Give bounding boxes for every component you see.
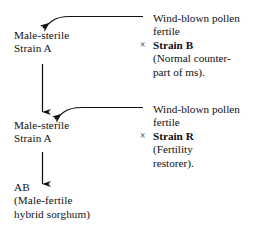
sorghum-crossing-diagram: Male-sterile Strain A Male-sterile Strai… — [0, 0, 260, 231]
pollen-source-stage-1-note1: (Normal counter- — [144, 52, 240, 65]
pollen-source-stage-2-line2: fertile — [144, 116, 240, 129]
female-parent-stage-1: Male-sterile Strain A — [14, 29, 69, 56]
female-parent-stage-2-line2: Strain A — [14, 132, 69, 145]
pollen-source-stage-2-strain: Strain R — [153, 130, 194, 142]
hybrid-result: AB (Male-fertile hybrid sorghum) — [14, 181, 90, 221]
female-parent-stage-2: Male-sterile Strain A — [14, 119, 69, 146]
pollen-source-stage-1-note2: part of ms). — [144, 66, 240, 79]
pollen-source-stage-2-note2: restorer). — [144, 157, 240, 170]
female-parent-stage-2-line1: Male-sterile — [14, 119, 69, 132]
pollen-source-stage-1-line1: Wind-blown pollen — [144, 12, 240, 25]
pollen-source-stage-2-note1: (Fertility — [144, 143, 240, 156]
cross-symbol-stage-2: × — [140, 130, 145, 143]
female-parent-stage-1-line2: Strain A — [14, 42, 69, 55]
cross-symbol-stage-1: × — [140, 39, 145, 52]
female-parent-stage-1-line1: Male-sterile — [14, 29, 69, 42]
pollen-source-stage-2-line1: Wind-blown pollen — [144, 103, 240, 116]
pollen-source-stage-1-strain-row: × Strain B — [144, 39, 240, 52]
pollen-arrow-stage-1 — [43, 17, 143, 29]
hybrid-result-line2: (Male-fertile — [14, 194, 90, 207]
pollen-source-stage-2-strain-row: × Strain R — [144, 130, 240, 143]
pollen-source-stage-2: Wind-blown pollen fertile × Strain R (Fe… — [144, 103, 240, 170]
pollen-source-stage-1-line2: fertile — [144, 25, 240, 38]
pollen-source-stage-1: Wind-blown pollen fertile × Strain B (No… — [144, 12, 240, 79]
pollen-source-stage-1-strain: Strain B — [153, 39, 193, 51]
hybrid-result-line1: AB — [14, 181, 90, 194]
pollen-arrow-stage-2 — [55, 108, 143, 120]
hybrid-result-line3: hybrid sorghum) — [14, 208, 90, 221]
